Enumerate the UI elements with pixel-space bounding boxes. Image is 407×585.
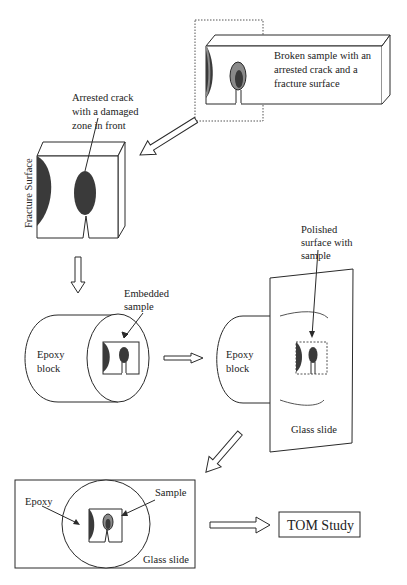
arrow-to-fracture-icon [136,113,200,162]
arrow-to-final-slide-icon [200,428,246,478]
arrested-crack-label: Arrested crack with a damaged zone in fr… [72,92,141,131]
embedded-sample-label: Embedded sample [124,288,172,312]
fracture-surface-label: Fracture Surface [23,158,34,228]
arrow-to-tom-icon [210,517,270,533]
diagram-canvas: Broken sample with an arrested crack and… [0,0,407,585]
glass-slide-label-1: Glass slide [291,424,337,435]
epoxy-block-label-2: Epoxy block [226,349,256,374]
glass-slide-label-2: Glass slide [143,554,189,565]
arrow-right-icon [164,353,203,363]
polished-surface-label: Polished surface with sample [301,224,355,261]
tom-study-label: TOM Study [287,518,354,533]
epoxy-label: Epoxy [25,496,53,507]
sample-label: Sample [155,487,187,498]
fracture-block [37,118,125,238]
arrow-down-icon [71,257,85,293]
